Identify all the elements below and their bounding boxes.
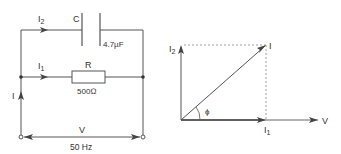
circuit-diagram: C 4.7µF R 500Ω I2 I1 I V 50 Hz <box>12 13 145 152</box>
frequency-label: 50 Hz <box>70 142 92 152</box>
resistor-name-label: R <box>85 60 92 70</box>
phasor-diagram: I2 I I1 V ϕ <box>169 41 328 136</box>
phasor-i-label: I <box>269 41 272 51</box>
i1-label: I1 <box>38 61 45 72</box>
capacitor-value-label: 4.7µF <box>103 40 124 49</box>
phasor-v-label: V <box>322 116 328 126</box>
diagram-canvas: C 4.7µF R 500Ω I2 I1 I V 50 Hz I2 I I1 V <box>0 0 341 154</box>
capacitor-name-label: C <box>73 14 80 24</box>
phasor-i2-label: I2 <box>169 44 176 55</box>
resistor-value-label: 500Ω <box>77 87 97 96</box>
junction-right <box>141 75 145 79</box>
i-phasor <box>181 46 265 120</box>
phasor-i1-label: I1 <box>264 125 271 136</box>
phasor-phi-label: ϕ <box>205 107 210 116</box>
i-total-label: I <box>12 91 15 101</box>
terminal-left <box>19 135 23 139</box>
terminal-right <box>141 135 145 139</box>
voltage-label: V <box>79 125 85 135</box>
i2-label: I2 <box>38 14 45 25</box>
phi-arc <box>196 107 200 120</box>
resistor <box>72 71 105 83</box>
junction-left <box>19 75 23 79</box>
